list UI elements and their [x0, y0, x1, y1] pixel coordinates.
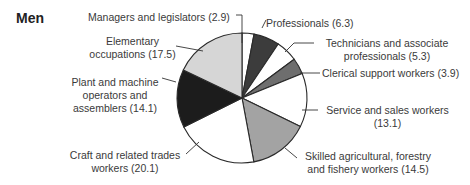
label-professionals: Professionals (6.3): [266, 17, 354, 30]
label-line: Craft and related trades: [60, 149, 190, 162]
label-technicians: Technicians and associate professionals …: [317, 37, 457, 63]
label-managers: Managers and legislators (2.9): [88, 11, 230, 24]
label-line: and fishery workers (14.5): [298, 163, 438, 176]
label-line: workers (20.1): [60, 162, 190, 175]
label-line: operators and: [65, 89, 165, 102]
label-skilled: Skilled agricultural, forestry and fishe…: [298, 150, 438, 176]
label-line: Elementary: [85, 35, 180, 48]
label-line: occupations (17.5): [85, 48, 180, 61]
chart-title: Men: [16, 10, 44, 26]
label-service: Service and sales workers (13.1): [320, 104, 455, 130]
label-line: Technicians and associate: [317, 37, 457, 50]
label-elementary: Elementary occupations (17.5): [85, 35, 180, 61]
label-line: Plant and machine: [65, 76, 165, 89]
pie-slices: [177, 33, 307, 163]
label-line: Skilled agricultural, forestry: [298, 150, 438, 163]
label-line: Service and sales workers: [320, 104, 455, 117]
label-line: professionals (5.3): [317, 50, 457, 63]
label-plant: Plant and machine operators and assemble…: [65, 76, 165, 115]
label-line: (13.1): [320, 117, 455, 130]
label-line: assemblers (14.1): [65, 102, 165, 115]
label-craft: Craft and related trades workers (20.1): [60, 149, 190, 175]
label-clerical: Clerical support workers (3.9): [322, 67, 459, 80]
